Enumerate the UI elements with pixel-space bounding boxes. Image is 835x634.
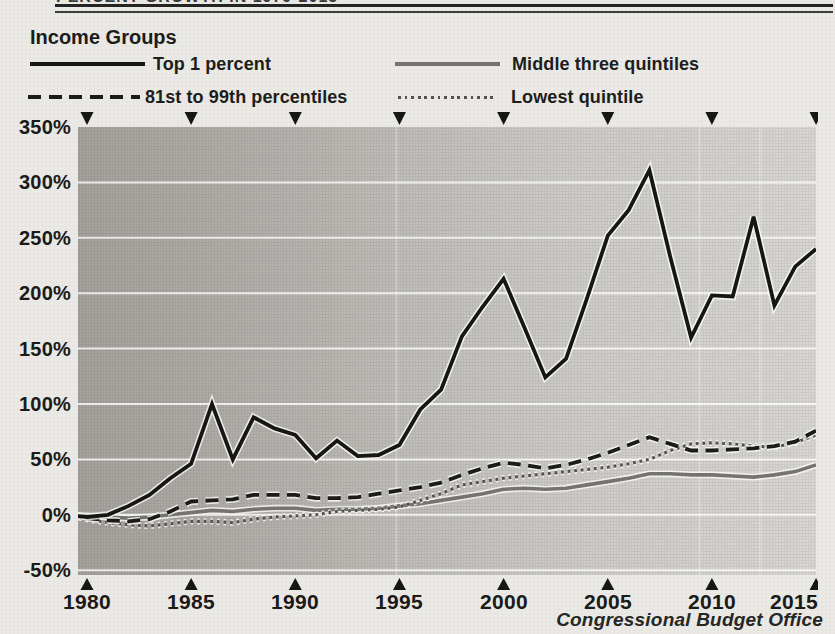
y-tick-label-350: 350%	[0, 115, 71, 139]
y-tick-label-150: 150%	[0, 337, 71, 361]
legend-item-lowest-quintile: Lowest quintile	[398, 87, 644, 107]
scan-crease	[698, 127, 701, 575]
down-triangle-marker-2005	[601, 112, 614, 125]
down-triangle-marker-1995	[393, 112, 406, 125]
y-tick-label-0: 0%	[0, 503, 71, 527]
up-triangle-marker-1995	[393, 578, 406, 590]
legend-item-middle-three-quintiles: Middle three quintiles	[395, 54, 699, 74]
x-tick-label-1980: 1980	[47, 590, 127, 614]
dashed-black-line-swatch	[28, 95, 140, 99]
x-tick-label-2000: 2000	[464, 590, 544, 614]
scan-crease	[759, 127, 762, 575]
up-triangle-marker-1990	[289, 578, 302, 590]
legend-title: Income Groups	[30, 26, 177, 49]
scan-crease	[395, 127, 398, 575]
down-triangle-marker-2015	[810, 112, 823, 125]
legend-label: Lowest quintile	[511, 87, 644, 108]
down-triangle-marker-2000	[497, 112, 510, 125]
down-triangle-marker-1985	[185, 112, 198, 125]
legend-label: 81st to 99th percentiles	[145, 87, 347, 108]
down-triangle-marker-2010	[705, 112, 718, 125]
x-tick-label-1990: 1990	[255, 590, 335, 614]
up-triangle-marker-2005	[601, 578, 614, 590]
double-rule	[55, 4, 833, 13]
up-triangle-marker-1985	[185, 578, 198, 590]
x-tick-label-1985: 1985	[151, 590, 231, 614]
legend-item-81st-to-99th: 81st to 99th percentiles	[28, 87, 347, 107]
up-triangle-marker-2010	[705, 578, 718, 590]
down-triangle-marker-1990	[289, 112, 302, 125]
solid-black-line-swatch	[30, 62, 145, 66]
legend-label: Top 1 percent	[153, 54, 271, 75]
y-tick-label-250: 250%	[0, 226, 71, 250]
y-tick-label--50: -50%	[0, 558, 71, 582]
up-triangle-marker-2000	[497, 578, 510, 590]
x-tick-label-1995: 1995	[359, 590, 439, 614]
y-tick-label-100: 100%	[0, 392, 71, 416]
up-triangle-marker-2015	[810, 578, 823, 590]
up-triangle-marker-1980	[81, 578, 94, 590]
source-attribution: Congressional Budget Office	[556, 609, 823, 631]
legend-label: Middle three quintiles	[512, 54, 699, 75]
y-tick-label-300: 300%	[0, 170, 71, 194]
dotted-gray-line-swatch	[398, 96, 497, 99]
legend-item-top-1-percent: Top 1 percent	[30, 54, 271, 74]
solid-gray-line-swatch	[395, 62, 500, 66]
y-tick-label-50: 50%	[0, 447, 71, 471]
plot-area-background	[78, 127, 816, 575]
scanned-book-page: PERCENT GROWTH IN 1979-2015 Income Group…	[0, 0, 835, 634]
y-tick-label-200: 200%	[0, 281, 71, 305]
down-triangle-marker-1980	[81, 112, 94, 125]
